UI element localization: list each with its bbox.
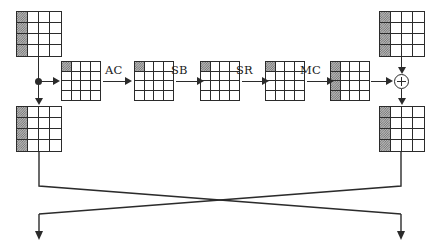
state-cell: [391, 129, 402, 140]
state-cell: [230, 91, 240, 101]
state-cell: [380, 129, 391, 140]
state-cell: [380, 107, 391, 118]
state-cell: [295, 91, 305, 101]
state-cell: [391, 12, 402, 23]
state-cell: [211, 81, 221, 91]
state-cell: [145, 81, 155, 91]
state-cell: [331, 62, 341, 72]
state-cell: [350, 91, 360, 101]
state-cell: [28, 140, 39, 151]
state-cell: [28, 118, 39, 129]
diagram-canvas: AC SB SR MC: [0, 0, 434, 248]
state-cell: [276, 72, 286, 82]
state-cell: [350, 81, 360, 91]
state-cell: [135, 62, 145, 72]
state-cell: [50, 140, 61, 151]
state-cell: [91, 81, 101, 91]
state-cell: [341, 91, 351, 101]
state-cell: [72, 91, 82, 101]
state-cell: [50, 129, 61, 140]
state-cell: [402, 34, 413, 45]
state-cell: [39, 107, 50, 118]
state-cell: [17, 45, 28, 56]
state-cell: [220, 72, 230, 82]
state-cell: [285, 62, 295, 72]
state-cell: [39, 23, 50, 34]
state-cell: [402, 140, 413, 151]
state-cell: [402, 129, 413, 140]
operation-label-sb: SB: [171, 63, 188, 77]
state-cell: [220, 62, 230, 72]
state-cell: [17, 107, 28, 118]
operation-label-sr: SR: [236, 63, 253, 77]
state-cell: [39, 12, 50, 23]
state-cell: [39, 34, 50, 45]
state-cell: [276, 81, 286, 91]
state-cell: [17, 118, 28, 129]
state-cell: [360, 62, 370, 72]
state-grid-top-left: [16, 11, 62, 57]
state-cell: [135, 81, 145, 91]
state-cell: [62, 91, 72, 101]
state-cell: [39, 45, 50, 56]
state-cell: [402, 12, 413, 23]
state-cell: [360, 91, 370, 101]
arrowhead-topright-to-xor: [398, 67, 406, 74]
state-cell: [341, 62, 351, 72]
arrowhead-mc: [327, 77, 334, 85]
state-cell: [50, 12, 61, 23]
state-cell: [266, 91, 276, 101]
state-cell: [391, 140, 402, 151]
state-cell: [91, 72, 101, 82]
arrowhead-right-output: [397, 231, 405, 240]
line-branch-down: [38, 81, 39, 99]
state-cell: [72, 81, 82, 91]
state-cell: [350, 62, 360, 72]
state-cell: [28, 23, 39, 34]
state-cell: [50, 107, 61, 118]
state-grid-pipeline-1: [61, 61, 101, 101]
path-right-to-left: [39, 152, 401, 214]
state-cell: [360, 81, 370, 91]
state-cell: [62, 72, 72, 82]
state-cell: [285, 81, 295, 91]
state-grid-bottom-left: [16, 106, 62, 152]
xor-gate: [394, 74, 409, 89]
state-grid-pipeline-3: [200, 61, 240, 101]
state-cell: [145, 91, 155, 101]
state-grid-pipeline-2: [134, 61, 174, 101]
state-cell: [164, 91, 174, 101]
state-cell: [413, 118, 424, 129]
arrowhead-branch-right: [53, 77, 60, 85]
state-cell: [135, 72, 145, 82]
state-cell: [28, 129, 39, 140]
state-cell: [331, 91, 341, 101]
state-cell: [276, 91, 286, 101]
state-cell: [72, 72, 82, 82]
state-cell: [50, 23, 61, 34]
line-ac: [103, 81, 125, 82]
state-cell: [211, 62, 221, 72]
state-cell: [285, 91, 295, 101]
state-cell: [285, 72, 295, 82]
state-cell: [380, 118, 391, 129]
state-cell: [17, 140, 28, 151]
state-cell: [39, 118, 50, 129]
state-cell: [62, 62, 72, 72]
state-cell: [391, 45, 402, 56]
state-cell: [402, 107, 413, 118]
state-cell: [295, 81, 305, 91]
state-cell: [39, 129, 50, 140]
state-cell: [341, 72, 351, 82]
state-cell: [413, 129, 424, 140]
state-cell: [17, 129, 28, 140]
state-cell: [28, 34, 39, 45]
state-cell: [154, 91, 164, 101]
state-cell: [72, 62, 82, 72]
state-grid-bottom-right: [379, 106, 425, 152]
state-cell: [211, 72, 221, 82]
state-cell: [413, 45, 424, 56]
state-cell: [380, 12, 391, 23]
state-cell: [154, 62, 164, 72]
state-cell: [50, 34, 61, 45]
